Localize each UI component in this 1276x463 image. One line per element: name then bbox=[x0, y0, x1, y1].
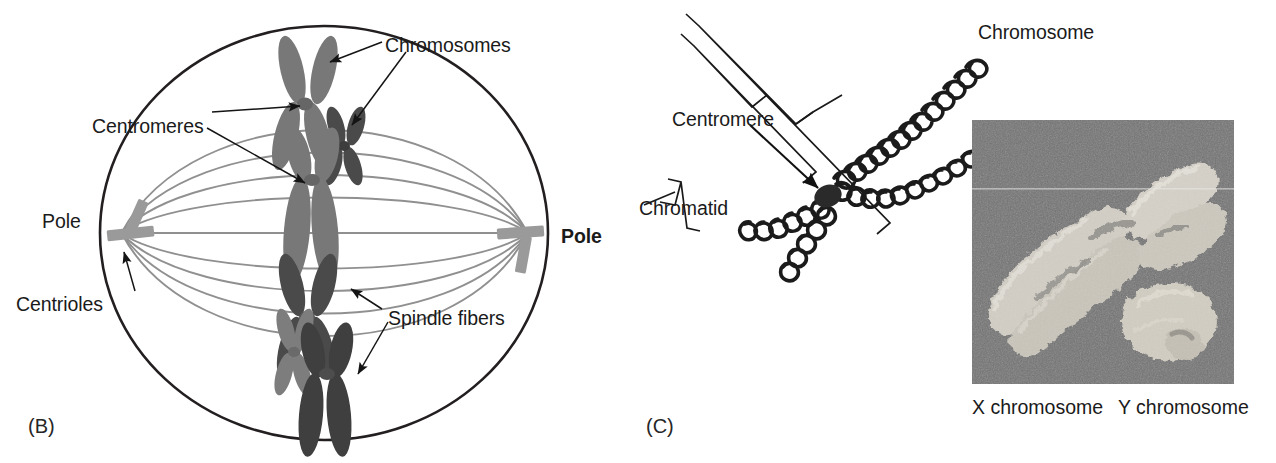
label-chromatid: Chromatid bbox=[639, 199, 728, 219]
label-pole-left: Pole bbox=[42, 212, 81, 232]
micrograph-svg bbox=[972, 120, 1234, 384]
panel-tag-c: (C) bbox=[646, 415, 674, 438]
centromere bbox=[319, 368, 335, 380]
label-centromeres: Centromeres bbox=[92, 117, 204, 137]
chromatid-arm-upper-left bbox=[781, 207, 836, 280]
caption-x-chromosome: X chromosome bbox=[972, 396, 1103, 419]
label-pole-right: Pole bbox=[561, 227, 602, 247]
label-centrioles: Centrioles bbox=[16, 295, 103, 315]
figure-root: Chromosomes Centromeres Pole Centrioles … bbox=[0, 0, 1276, 463]
panel-tag-b: (B) bbox=[28, 415, 55, 438]
centromere bbox=[304, 174, 320, 186]
chromatid-arm-lower-right bbox=[834, 142, 993, 207]
label-spindle-fibers: Spindle fibers bbox=[388, 309, 505, 329]
leader-centromere bbox=[750, 125, 818, 188]
leader-chromosome-bracket bbox=[796, 95, 842, 124]
centromere bbox=[338, 141, 350, 151]
caption-y-chromosome: Y chromosome bbox=[1118, 396, 1249, 419]
panel-b-svg bbox=[0, 0, 640, 463]
panel-b-mitotic-cell: Chromosomes Centromeres Pole Centrioles … bbox=[0, 0, 640, 463]
centromere bbox=[288, 347, 300, 357]
label-chromosome: Chromosome bbox=[978, 23, 1094, 43]
label-chromosomes: Chromosomes bbox=[385, 36, 511, 56]
label-centromere: Centromere bbox=[672, 110, 774, 130]
panel-c-chromosome-detail: Chromosome Centromere Chromatid X chromo… bbox=[620, 0, 1276, 463]
centromere bbox=[297, 98, 313, 111]
micrograph-xy-chromosomes bbox=[972, 120, 1234, 384]
